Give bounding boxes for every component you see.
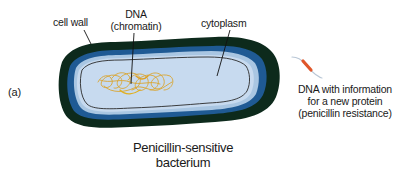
caption-line2: bacterium xyxy=(118,155,248,170)
plasmid-dna-label: DNA with information for a new protein (… xyxy=(290,83,400,119)
caption-line1: Penicillin-sensitive xyxy=(118,140,248,155)
plasmid-label-line2: for a new protein xyxy=(290,95,400,107)
dna-label-line1: DNA xyxy=(104,8,168,20)
cytoplasm-label: cytoplasm xyxy=(201,17,246,29)
cytoplasm-shape xyxy=(77,55,254,112)
figure-caption: Penicillin-sensitive bacterium xyxy=(118,140,248,170)
plasmid-dna-fragment xyxy=(292,57,322,78)
cell-wall-label: cell wall xyxy=(53,16,88,28)
plasmid-label-line1: DNA with information xyxy=(290,83,400,95)
panel-label: (a) xyxy=(8,86,21,98)
dna-label-line2: (chromatin) xyxy=(104,20,168,32)
dna-chromatin-label: DNA (chromatin) xyxy=(104,8,168,32)
bacterium-diagram: (a) cell wall DNA (chromatin) cytoplasm … xyxy=(0,0,401,182)
cell-wall-leader xyxy=(84,30,91,44)
plasmid-label-line3: (penicillin resistance) xyxy=(290,107,400,119)
